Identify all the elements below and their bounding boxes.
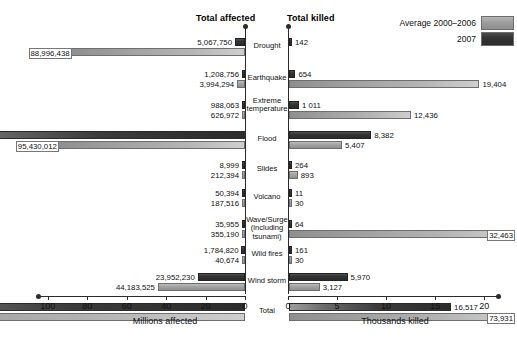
bar-killed-avg (289, 199, 292, 207)
bar-value-killed-y2007: 142 (295, 38, 308, 47)
bar-affected-y2007 (198, 273, 245, 281)
bar-killed-avg (289, 230, 513, 238)
bar-killed-avg (289, 111, 411, 119)
bar-value-affected-y2007: 5,067,750 (197, 38, 232, 47)
bar-value-affected-y2007: 8,999 (219, 161, 239, 170)
bar-affected-avg (242, 230, 245, 238)
bar-value-killed-avg: 12,436 (414, 111, 438, 120)
category-label-extreme-temperature: Extreme temperature (246, 97, 288, 114)
left-panel-bars: 1,784,82040,674 (0, 242, 245, 268)
bar-value-killed-avg: 30 (295, 199, 304, 208)
bar-killed-y2007 (289, 246, 292, 254)
left-panel-bars: 1,208,7563,994,294 (0, 64, 245, 94)
bar-affected-y2007 (0, 131, 245, 139)
bar-value-killed-y2007: 654 (298, 70, 311, 79)
header-total-killed: Total killed (287, 13, 335, 23)
right-axis-end-cap (496, 294, 501, 299)
bar-value-affected-avg: 187,516 (211, 199, 239, 208)
bar-value-killed-y2007: 8,382 (374, 131, 394, 140)
bar-value-killed-avg: 3,127 (323, 283, 343, 292)
right-panel-bars: 142 (289, 30, 517, 64)
bar-affected-y2007 (242, 101, 245, 109)
right-tick-label: 15 (420, 301, 450, 311)
left-baseline-cap (243, 24, 248, 29)
right-tick (484, 296, 485, 300)
right-tick-label: 5 (322, 301, 352, 311)
left-tick-label: 80 (72, 301, 102, 311)
chart-row: Wild fires1,784,82040,67416130 (0, 242, 517, 268)
left-tick (245, 296, 246, 300)
bar-killed-avg (289, 141, 342, 149)
bar-killed-y2007 (289, 220, 292, 228)
left-panel-bars: 988,063626,972 (0, 95, 245, 125)
right-panel-bars: 1 01112,436 (289, 95, 517, 125)
bar-affected-y2007 (242, 189, 245, 197)
bar-killed-avg (289, 283, 320, 291)
left-tick (87, 296, 88, 300)
left-tick (206, 296, 207, 300)
left-panel-bars: 23,952,23044,183,525 (0, 268, 245, 296)
bar-affected-avg (242, 199, 245, 207)
left-axis-line (38, 296, 246, 297)
bar-affected-y2007 (235, 38, 245, 46)
bar-affected-y2007 (242, 70, 245, 78)
bar-value-affected-avg: 212,394 (211, 171, 239, 180)
bar-killed-y2007 (289, 38, 292, 46)
bar-value-killed-y2007: 64 (295, 220, 304, 229)
right-axis-line (288, 296, 500, 297)
bar-affected-avg (237, 80, 245, 88)
bar-value-killed-avg: 32,463 (487, 230, 515, 241)
left-tick-label: 60 (112, 301, 142, 311)
left-axis-title: Millions affected (80, 316, 250, 326)
left-panel-bars: 164,662,77595,430,012 (0, 125, 245, 155)
left-tick (48, 296, 49, 300)
right-panel-bars: 6432,463 (289, 212, 517, 246)
bar-value-killed-y2007: 264 (295, 161, 308, 170)
bar-value-killed-y2007: 5,970 (351, 273, 371, 282)
bar-value-affected-y2007: 35,955 (215, 220, 239, 229)
bar-affected-avg (242, 256, 245, 264)
bar-value-killed-avg: 5,407 (345, 141, 365, 150)
bar-affected-avg (242, 111, 245, 119)
bar-killed-avg (289, 256, 292, 264)
bar-killed-y2007 (289, 70, 295, 78)
category-label-slides: Slides (246, 165, 288, 173)
category-label-drought: Drought (246, 42, 288, 50)
right-panel-bars: 8,3825,407 (289, 125, 517, 155)
category-label-volcano: Volcano (246, 193, 288, 201)
right-tick-label: 0 (273, 301, 303, 311)
left-panel-bars: 8,999212,394 (0, 156, 245, 184)
right-tick (386, 296, 387, 300)
bar-killed-y2007 (289, 273, 348, 281)
bar-value-killed-y2007: 1 011 (302, 101, 321, 110)
bar-affected-y2007 (242, 220, 245, 228)
left-tick-label: 20 (191, 301, 221, 311)
bar-value-affected-avg: 355,190 (211, 230, 239, 239)
right-tick (288, 296, 289, 300)
plot-area: Drought5,067,75088,996,438142Earthquake1… (0, 26, 517, 294)
right-panel-bars: 65419,404 (289, 64, 517, 94)
chart-row: Extreme temperature988,063626,9721 01112… (0, 95, 517, 125)
bar-value-affected-y2007: 1,208,756 (204, 70, 239, 79)
bar-killed-y2007 (289, 161, 292, 169)
bar-value-killed-avg: 73,931 (487, 313, 515, 324)
bar-affected-avg (57, 141, 245, 149)
right-tick (435, 296, 436, 300)
bar-killed-y2007 (289, 131, 371, 139)
right-panel-bars: 16130 (289, 242, 517, 268)
bar-value-killed-avg: 19,404 (482, 80, 506, 89)
bar-value-affected-y2007: 50,394 (215, 189, 239, 198)
left-panel-bars: 50,394187,516 (0, 184, 245, 212)
left-tick (127, 296, 128, 300)
left-axis-end-cap (36, 294, 41, 299)
right-baseline-cap (286, 24, 291, 29)
bar-value-affected-avg: 95,430,012 (16, 141, 59, 152)
left-tick-label: 100 (33, 301, 63, 311)
left-tick-label: 0 (230, 301, 260, 311)
right-tick-label: 10 (371, 301, 401, 311)
chart-row: Slides8,999212,394264893 (0, 156, 517, 184)
bar-value-affected-avg: 626,972 (211, 111, 239, 120)
bar-affected-y2007 (241, 246, 245, 254)
category-label-wave-surge-including-tsunami: Wave/Surge (including tsunami) (246, 216, 288, 241)
chart-row: Wave/Surge (including tsunami)35,955355,… (0, 212, 517, 246)
